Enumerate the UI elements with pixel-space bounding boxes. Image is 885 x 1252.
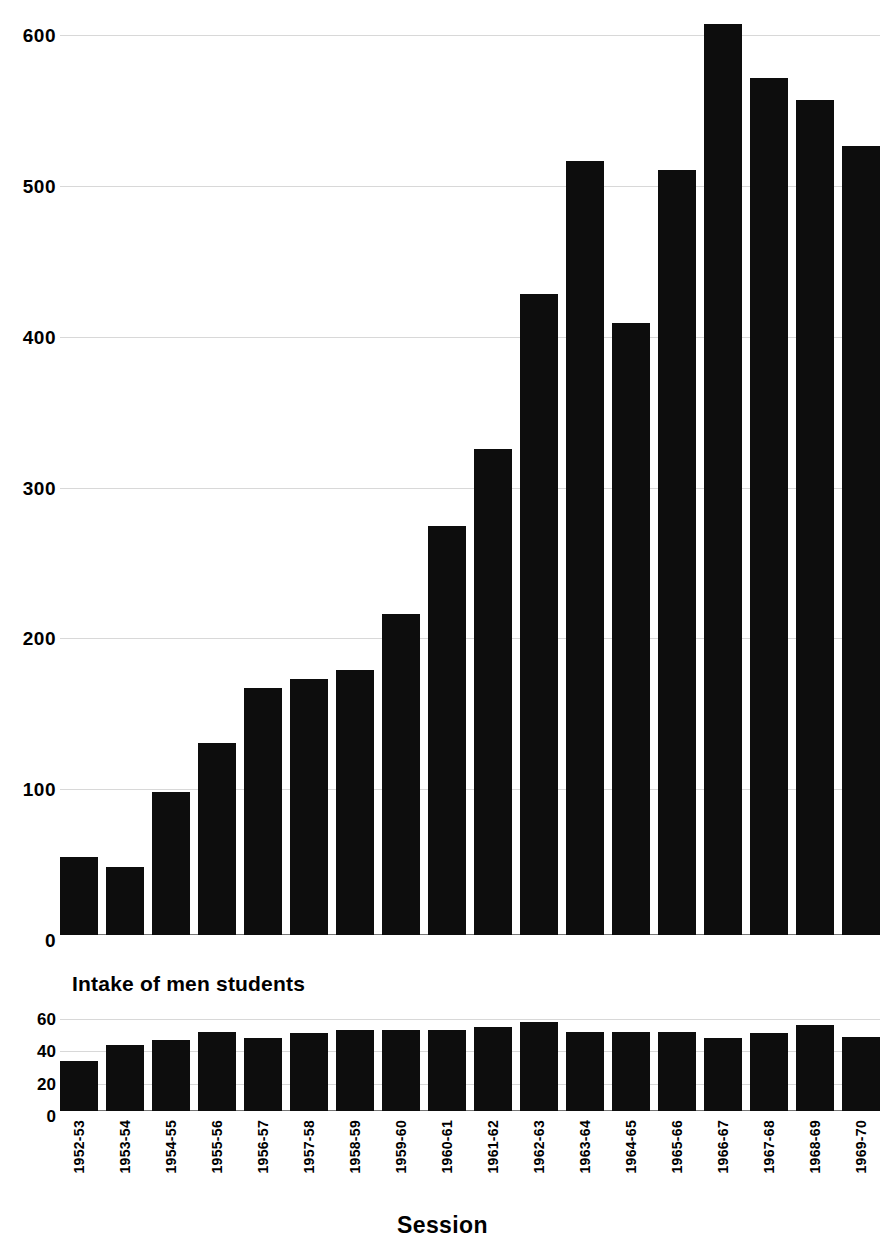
x-tick: 1953-54 (106, 1120, 144, 1210)
x-tick-label: 1965-66 (669, 1120, 685, 1173)
x-tick: 1964-65 (612, 1120, 650, 1210)
x-tick: 1968-69 (796, 1120, 834, 1210)
main-bar (704, 24, 742, 935)
sub-bar (796, 1025, 834, 1111)
sub-bar (106, 1045, 144, 1111)
sub-y-tick-label: 0 (47, 1108, 56, 1125)
main-bar (796, 100, 834, 935)
main-bar (60, 857, 98, 935)
figure: 0100200300400500600 Intake of men studen… (0, 0, 885, 1252)
sub-bar (750, 1033, 788, 1111)
x-tick-label: 1968-69 (807, 1120, 823, 1173)
main-y-tick-label: 300 (23, 478, 56, 497)
main-y-tick-label: 200 (23, 629, 56, 648)
sub-bar (60, 1061, 98, 1111)
x-tick-label: 1962-63 (531, 1120, 547, 1173)
sub-bar (198, 1032, 236, 1111)
x-tick-label: 1957-58 (301, 1120, 317, 1173)
x-tick: 1956-57 (244, 1120, 282, 1210)
main-bar (842, 146, 880, 935)
sub-bar-chart: 0204060 (0, 1006, 885, 1118)
main-bar (152, 792, 190, 935)
x-tick: 1958-59 (336, 1120, 374, 1210)
x-tick: 1959-60 (382, 1120, 420, 1210)
sub-bar (244, 1038, 282, 1111)
main-y-tick-label: 0 (45, 931, 56, 950)
main-bar (336, 670, 374, 935)
sub-bar (704, 1038, 742, 1111)
main-bar (474, 449, 512, 935)
sub-bar (290, 1033, 328, 1111)
sub-y-tick-label: 60 (37, 1011, 56, 1028)
sub-bar-series (60, 1006, 880, 1111)
x-tick-label: 1958-59 (347, 1120, 363, 1173)
main-bar-chart: 0100200300400500600 (0, 0, 885, 950)
main-bar (750, 78, 788, 935)
x-tick: 1969-70 (842, 1120, 880, 1210)
sub-bar (612, 1032, 650, 1111)
sub-y-tick-label: 20 (37, 1075, 56, 1092)
sub-bar (566, 1032, 604, 1111)
main-bar (566, 161, 604, 935)
x-tick: 1963-64 (566, 1120, 604, 1210)
x-tick: 1961-62 (474, 1120, 512, 1210)
x-tick-label: 1952-53 (71, 1120, 87, 1173)
x-tick: 1960-61 (428, 1120, 466, 1210)
sub-bar (474, 1027, 512, 1111)
main-bar (244, 688, 282, 935)
x-tick-label: 1955-56 (209, 1120, 225, 1173)
sub-bar (658, 1032, 696, 1111)
sub-bar (382, 1030, 420, 1111)
main-bar (428, 526, 466, 935)
main-y-tick-label: 400 (23, 327, 56, 346)
x-tick: 1952-53 (60, 1120, 98, 1210)
main-bar (658, 170, 696, 935)
sub-bar (842, 1037, 880, 1111)
x-tick: 1957-58 (290, 1120, 328, 1210)
sub-chart-title: Intake of men students (72, 972, 305, 996)
x-tick: 1954-55 (152, 1120, 190, 1210)
x-axis-title: Session (0, 1212, 885, 1239)
sub-bar (428, 1030, 466, 1111)
x-tick-label: 1964-65 (623, 1120, 639, 1173)
x-tick-label: 1963-64 (577, 1120, 593, 1173)
x-tick: 1962-63 (520, 1120, 558, 1210)
sub-plot-area (60, 1006, 880, 1116)
main-bar (612, 323, 650, 935)
main-bar (106, 867, 144, 935)
sub-y-axis: 0204060 (0, 1006, 56, 1118)
x-tick-label: 1966-67 (715, 1120, 731, 1173)
x-axis-tick-labels: 1952-531953-541954-551955-561956-571957-… (60, 1120, 880, 1210)
x-tick-label: 1956-57 (255, 1120, 271, 1173)
main-y-tick-label: 600 (23, 26, 56, 45)
x-tick-label: 1959-60 (393, 1120, 409, 1173)
sub-y-tick-label: 40 (37, 1043, 56, 1060)
x-tick-label: 1954-55 (163, 1120, 179, 1173)
main-bar (520, 294, 558, 935)
main-bar (290, 679, 328, 935)
sub-bar (520, 1022, 558, 1111)
x-tick-label: 1969-70 (853, 1120, 869, 1173)
x-tick: 1955-56 (198, 1120, 236, 1210)
x-tick-label: 1953-54 (117, 1120, 133, 1173)
x-tick: 1966-67 (704, 1120, 742, 1210)
main-y-axis: 0100200300400500600 (0, 0, 56, 950)
x-tick-label: 1960-61 (439, 1120, 455, 1173)
main-bar-series (60, 0, 880, 935)
x-tick-label: 1961-62 (485, 1120, 501, 1173)
x-tick-label: 1967-68 (761, 1120, 777, 1173)
sub-bar (336, 1030, 374, 1111)
main-y-tick-label: 100 (23, 780, 56, 799)
main-plot-area (60, 0, 880, 940)
x-tick: 1965-66 (658, 1120, 696, 1210)
sub-bar (152, 1040, 190, 1111)
main-bar (198, 743, 236, 935)
main-y-tick-label: 500 (23, 176, 56, 195)
main-bar (382, 614, 420, 935)
x-tick: 1967-68 (750, 1120, 788, 1210)
